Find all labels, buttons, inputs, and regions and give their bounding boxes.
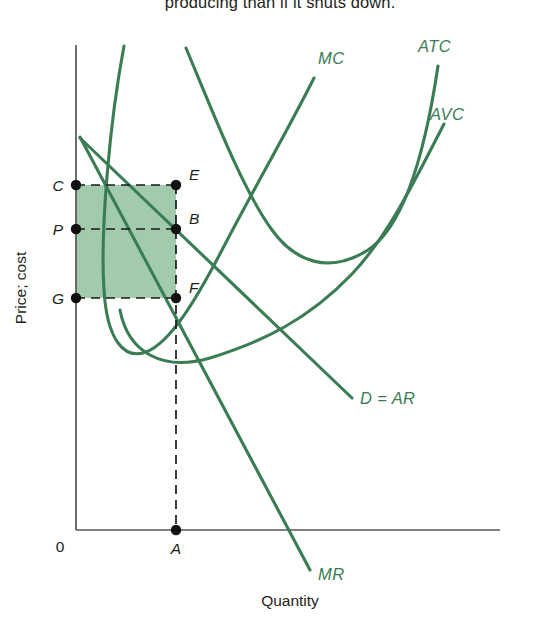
- axis-title-y: Price; cost: [12, 251, 29, 324]
- point-dot-c: [71, 180, 81, 190]
- figure-root: producing than if it shuts down. C: [0, 0, 560, 637]
- axis-title-x: Quantity: [261, 592, 319, 609]
- label-point-g: G: [52, 290, 64, 307]
- economics-diagram: C P G E B F A 0 MC ATC AVC D = AR MR Pri…: [0, 0, 560, 637]
- label-point-b: B: [189, 210, 199, 227]
- point-dot-g: [71, 293, 81, 303]
- point-dot-f: [171, 293, 181, 303]
- label-curve-demand-ar: D = AR: [360, 389, 415, 407]
- label-point-p: P: [53, 221, 64, 238]
- label-point-a: A: [170, 540, 181, 557]
- point-dot-a: [171, 525, 181, 535]
- label-curve-mr: MR: [318, 565, 344, 583]
- loss-rectangle-CEFG: [76, 185, 176, 298]
- label-curve-avc: AVC: [429, 105, 464, 123]
- point-dot-p: [71, 224, 81, 234]
- point-dot-e: [171, 180, 181, 190]
- label-curve-mc: MC: [318, 49, 344, 67]
- curve-mr: [80, 137, 310, 570]
- label-curve-atc: ATC: [417, 37, 451, 55]
- label-point-e: E: [189, 166, 200, 183]
- label-origin: 0: [56, 538, 65, 555]
- label-point-f: F: [189, 279, 200, 296]
- label-point-c: C: [52, 177, 64, 194]
- point-dot-b: [171, 224, 181, 234]
